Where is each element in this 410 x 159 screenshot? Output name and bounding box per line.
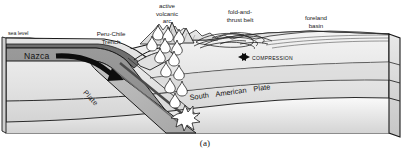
label-active-volcanic-arc: active volcanic arc xyxy=(148,2,186,25)
block-right-face xyxy=(389,34,400,137)
label-peru-chile-trench: Peru-Chile Trench xyxy=(88,30,134,45)
label-fold-and-thrust-belt: fold-and- thrust belt xyxy=(218,8,262,23)
magma-teardrop-icon xyxy=(153,25,164,40)
figure-caption: (a) xyxy=(0,138,410,148)
label-nazca-plate: Nazca xyxy=(24,51,49,61)
label-sea-level: sea level xyxy=(8,30,28,36)
subduction-block-diagram: South American Plate xyxy=(0,0,410,159)
label-foreland-basin: foreland basin xyxy=(295,14,337,29)
block-left-face xyxy=(2,37,6,133)
label-compression: COMPRESSION xyxy=(252,55,293,61)
figure-container: South American Plate sea level Peru-Chil… xyxy=(0,0,410,159)
